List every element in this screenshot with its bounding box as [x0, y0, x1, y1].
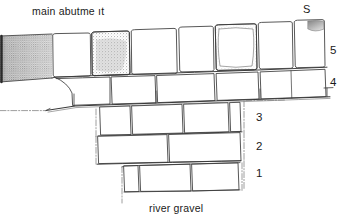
course-1-blocks: [122, 163, 240, 192]
wall-elevation-drawing: [0, 0, 352, 219]
section-marker-label: S: [303, 4, 310, 15]
course-5-blocks: [53, 20, 325, 77]
course-number-2: 2: [256, 141, 262, 153]
main-abutment-mass: [0, 34, 52, 82]
course-number-1: 1: [256, 168, 262, 180]
course-number-3: 3: [256, 112, 262, 124]
course-3-blocks: [100, 102, 241, 135]
main-abutment-label: main abutme ıt: [32, 6, 104, 17]
river-gravel-label: river gravel: [149, 203, 203, 214]
course-number-4: 4: [330, 77, 336, 89]
figure-canvas: main abutme ıt S 5 4 3 2 1 river gravel: [0, 0, 352, 219]
course-number-5: 5: [330, 45, 336, 57]
course-2-blocks: [98, 133, 241, 164]
